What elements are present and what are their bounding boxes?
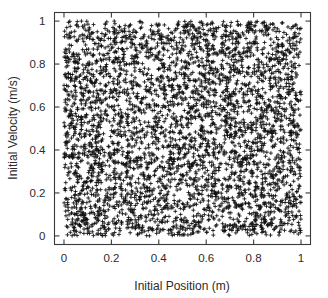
x-axis-label: Initial Position (m) — [134, 279, 229, 293]
x-tick-label: 1 — [298, 252, 304, 264]
y-tick-label: 0.2 — [30, 187, 46, 199]
y-tick-label: 0 — [39, 230, 45, 242]
x-tick-label: 0 — [61, 252, 67, 264]
y-tick-label: 0.8 — [30, 58, 46, 70]
scatter-plot-figure: 00.20.40.60.8100.20.40.60.81 Initial Pos… — [0, 0, 328, 298]
x-tick-label: 0.8 — [246, 252, 262, 264]
plot-canvas: 00.20.40.60.8100.20.40.60.81 Initial Pos… — [0, 0, 328, 298]
y-tick-label: 0.4 — [30, 144, 47, 156]
x-tick-label: 0.4 — [151, 252, 168, 264]
x-tick-label: 0.6 — [198, 252, 214, 264]
figure-page: 00.20.40.60.8100.20.40.60.81 Initial Pos… — [0, 0, 328, 298]
y-tick-label: 1 — [39, 15, 45, 27]
x-tick-label: 0.2 — [103, 252, 119, 264]
y-tick-label: 0.6 — [30, 101, 46, 113]
y-axis-label: Initial Velocity (m/s) — [6, 76, 20, 179]
